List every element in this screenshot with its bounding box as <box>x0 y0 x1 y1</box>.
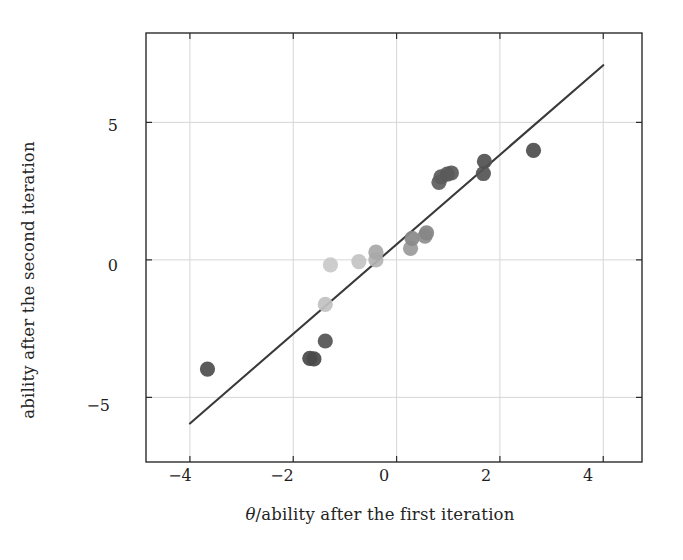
x-axis-label: θ/ability after the first iteration <box>150 505 610 524</box>
data-point <box>200 361 215 376</box>
data-point <box>351 254 366 269</box>
data-point <box>477 154 492 169</box>
data-point <box>526 143 541 158</box>
y-tick-label-neg5: −5 <box>70 396 110 415</box>
x-tick-label-4: 4 <box>568 466 608 485</box>
data-point <box>318 333 333 348</box>
data-point <box>306 351 321 366</box>
scatter-plot-figure: ability after the second iteration θ/abi… <box>0 0 683 560</box>
data-point <box>404 231 419 246</box>
data-point <box>318 297 333 312</box>
y-tick-label-5: 5 <box>78 116 118 135</box>
x-tick-label-0: 0 <box>364 466 404 485</box>
data-point <box>419 225 434 240</box>
x-axis-label-text: /ability after the first iteration <box>256 505 515 524</box>
y-tick-label-0: 0 <box>78 256 118 275</box>
x-tick-label-neg4: −4 <box>160 466 200 485</box>
x-tick-label-neg2: −2 <box>262 466 302 485</box>
theta-symbol: θ <box>245 505 255 524</box>
y-axis-label: ability after the second iteration <box>0 0 56 560</box>
data-point <box>444 165 459 180</box>
data-point <box>368 245 383 260</box>
x-tick-label-2: 2 <box>466 466 506 485</box>
data-point <box>323 257 338 272</box>
